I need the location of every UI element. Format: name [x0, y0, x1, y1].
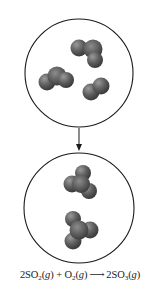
eq-species: SO	[25, 269, 38, 280]
so2-molecule-icon	[39, 67, 75, 91]
eq-plus: +	[54, 269, 65, 280]
chemical-equation: 2SO2(g) + O2(g)⟶2SO3(g)	[0, 268, 160, 280]
reactants-circle	[25, 19, 133, 127]
products-panel	[24, 153, 134, 263]
eq-paren: )	[137, 269, 140, 280]
eq-paren: )	[84, 269, 87, 280]
reaction-arrow-icon: ⟶	[89, 268, 104, 280]
eq-species: O	[65, 269, 72, 280]
down-arrow-icon	[76, 128, 82, 151]
reactants-panel	[25, 19, 133, 127]
o2-molecule-icon	[83, 78, 110, 101]
reaction-diagram	[0, 0, 160, 308]
so3-molecule-icon	[64, 165, 98, 199]
eq-species: SO	[112, 269, 125, 280]
so2-molecule-icon	[71, 40, 104, 69]
so3-molecule-icon	[65, 211, 99, 250]
